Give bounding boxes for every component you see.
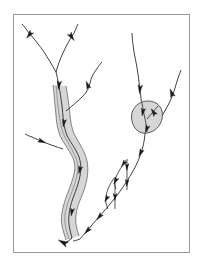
stream-network-figure [0,0,203,270]
figure-background [0,0,203,270]
stream-network-canvas [0,0,203,270]
